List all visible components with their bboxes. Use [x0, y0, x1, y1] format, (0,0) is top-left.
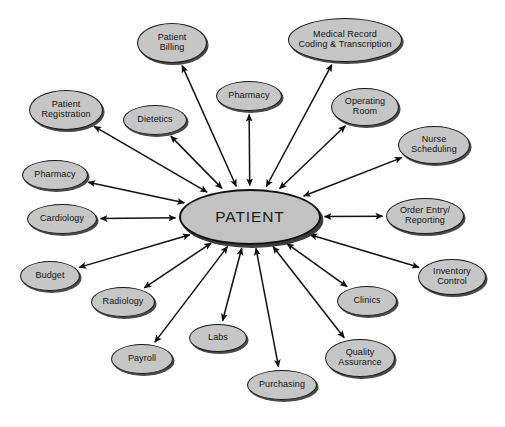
- node-label-order-entry: Order Entry/ Reporting: [397, 206, 453, 225]
- node-label-patient-reg: Patient Registration: [38, 100, 93, 119]
- patient-hub-diagram: Patient BillingMedical Record Coding & T…: [0, 0, 505, 427]
- node-operating-room[interactable]: Operating Room: [331, 88, 399, 126]
- node-label-radiology: Radiology: [100, 297, 147, 307]
- node-label-quality: Quality Assurance: [335, 348, 384, 367]
- node-label-medical-record: Medical Record Coding & Transcription: [295, 30, 394, 49]
- node-label-nurse-scheduling: Nurse Scheduling: [408, 135, 460, 154]
- hub-node-patient[interactable]: PATIENT: [179, 189, 321, 245]
- node-quality[interactable]: Quality Assurance: [325, 339, 395, 377]
- node-pharmacy-left[interactable]: Pharmacy: [22, 160, 88, 190]
- node-label-inventory: Inventory Control: [430, 267, 474, 286]
- node-inventory[interactable]: Inventory Control: [418, 259, 486, 295]
- node-patient-reg[interactable]: Patient Registration: [29, 90, 103, 130]
- node-label-dietetics: Dietetics: [134, 115, 175, 125]
- node-dietetics[interactable]: Dietetics: [123, 105, 187, 135]
- node-label-cardiology: Cardiology: [37, 214, 87, 224]
- node-purchasing[interactable]: Purchasing: [247, 370, 317, 400]
- node-label-pharmacy-top: Pharmacy: [225, 91, 272, 101]
- node-label-labs: Labs: [205, 333, 231, 343]
- node-payroll[interactable]: Payroll: [111, 344, 173, 374]
- node-clinics[interactable]: Clinics: [337, 286, 397, 316]
- node-label-purchasing: Purchasing: [256, 380, 308, 390]
- node-layer: Patient BillingMedical Record Coding & T…: [0, 0, 505, 427]
- node-label-pharmacy-left: Pharmacy: [31, 170, 78, 180]
- node-medical-record[interactable]: Medical Record Coding & Transcription: [288, 18, 402, 62]
- node-nurse-scheduling[interactable]: Nurse Scheduling: [398, 126, 470, 164]
- node-label-patient-billing: Patient Billing: [155, 33, 190, 52]
- hub-node-label: PATIENT: [212, 209, 287, 226]
- node-cardiology[interactable]: Cardiology: [27, 204, 97, 234]
- node-pharmacy-top[interactable]: Pharmacy: [216, 81, 282, 111]
- node-label-payroll: Payroll: [125, 354, 159, 364]
- node-radiology[interactable]: Radiology: [91, 287, 155, 317]
- node-budget[interactable]: Budget: [20, 261, 80, 291]
- node-label-operating-room: Operating Room: [342, 97, 388, 116]
- node-label-budget: Budget: [32, 271, 67, 281]
- node-label-clinics: Clinics: [350, 296, 383, 306]
- node-patient-billing[interactable]: Patient Billing: [137, 23, 207, 63]
- node-order-entry[interactable]: Order Entry/ Reporting: [386, 198, 464, 234]
- node-labs[interactable]: Labs: [189, 324, 247, 352]
